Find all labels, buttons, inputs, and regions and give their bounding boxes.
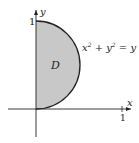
semicircle-region-diagram: 1 x 1 y D x2 + y2 = y — [0, 0, 139, 143]
curve-equation-label: x2 + y2 = y — [82, 41, 136, 53]
y-axis-arrow-icon — [34, 10, 38, 15]
y-tick-label: 1 — [29, 16, 35, 27]
y-axis-label: y — [39, 6, 46, 17]
x-axis-label: x — [127, 97, 133, 108]
region-label: D — [50, 59, 60, 72]
x-tick-label: 1 — [120, 113, 126, 123]
